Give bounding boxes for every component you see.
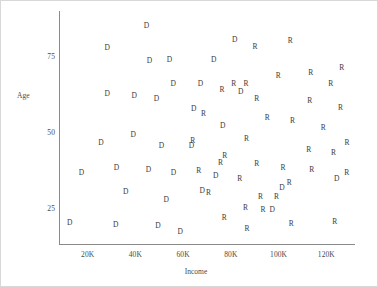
data-point-r: R: [190, 137, 195, 145]
y-tick-label: 50: [47, 128, 55, 137]
data-point-r: R: [244, 136, 249, 144]
data-point-r: R: [309, 166, 314, 174]
data-point-d: D: [279, 184, 284, 192]
data-point-r: R: [308, 69, 313, 77]
data-point-d: D: [163, 196, 168, 204]
data-point-r: R: [339, 64, 344, 72]
x-axis-title: Income: [185, 267, 208, 276]
data-point-d: D: [213, 172, 218, 180]
data-point-d: D: [178, 228, 183, 236]
x-tick-label: 40K: [129, 250, 142, 259]
data-point-r: R: [261, 206, 266, 214]
data-point-r: R: [258, 194, 263, 202]
data-point-d: D: [146, 166, 151, 174]
data-point-d: D: [269, 207, 274, 215]
data-point-d: D: [159, 143, 164, 151]
y-axis-line: [59, 11, 60, 245]
x-tick-label: 100K: [270, 250, 287, 259]
data-point-d: D: [147, 57, 152, 65]
data-point-d: D: [67, 219, 72, 227]
data-point-d: D: [232, 37, 237, 45]
data-point-r: R: [245, 225, 250, 233]
data-point-d: D: [200, 187, 205, 195]
x-tick-label: 120K: [318, 250, 335, 259]
data-point-d: D: [131, 92, 136, 100]
data-point-r: R: [254, 160, 259, 168]
data-point-d: D: [113, 221, 118, 229]
data-point-r: R: [243, 80, 248, 88]
data-point-r: R: [288, 38, 293, 46]
data-point-d: D: [167, 56, 172, 64]
data-point-r: R: [321, 125, 326, 133]
data-point-r: R: [332, 218, 337, 226]
data-point-r: R: [222, 214, 227, 222]
data-point-d: D: [105, 44, 110, 52]
data-point-r: R: [290, 118, 295, 126]
data-point-d: D: [171, 80, 176, 88]
x-tick-label: 80K: [224, 250, 237, 259]
data-point-r: R: [220, 86, 225, 94]
data-point-r: R: [306, 146, 311, 154]
data-point-r: R: [307, 97, 312, 105]
y-tick-label: 75: [47, 52, 55, 61]
data-point-d: D: [131, 132, 136, 140]
data-point-d: D: [123, 189, 128, 197]
data-point-d: D: [334, 175, 339, 183]
data-point-d: D: [198, 80, 203, 88]
y-axis-title: Age: [17, 91, 30, 100]
data-point-r: R: [345, 139, 350, 147]
data-point-r: R: [237, 175, 242, 183]
data-point-r: R: [287, 180, 292, 188]
x-tick-label: 60K: [177, 250, 190, 259]
data-point-r: R: [265, 114, 270, 122]
data-point-d: D: [238, 89, 243, 97]
data-point-d: D: [171, 169, 176, 177]
data-point-d: D: [211, 56, 216, 64]
data-point-r: R: [254, 95, 259, 103]
data-point-d: D: [191, 106, 196, 114]
data-point-d: D: [98, 139, 103, 147]
data-point-r: R: [201, 110, 206, 118]
data-point-d: D: [154, 95, 159, 103]
data-point-r: R: [206, 189, 211, 197]
y-tick-label: 25: [47, 203, 55, 212]
data-point-r: R: [274, 194, 279, 202]
data-point-r: R: [231, 80, 236, 88]
x-axis-line: [59, 244, 355, 245]
data-point-r: R: [243, 205, 248, 213]
data-point-r: R: [218, 159, 223, 167]
data-point-d: D: [144, 22, 149, 30]
data-point-r: R: [338, 104, 343, 112]
data-point-d: D: [105, 90, 110, 98]
data-point-r: R: [252, 44, 257, 52]
data-point-r: R: [344, 169, 349, 177]
data-point-r: R: [280, 165, 285, 173]
data-point-r: R: [328, 80, 333, 88]
data-point-r: R: [276, 72, 281, 80]
data-point-r: R: [289, 220, 294, 228]
data-point-d: D: [220, 122, 225, 130]
x-tick-label: 20K: [81, 250, 94, 259]
data-point-r: R: [331, 149, 336, 157]
data-point-r: R: [196, 168, 201, 176]
data-point-d: D: [155, 223, 160, 231]
data-point-d: D: [114, 165, 119, 173]
scatter-plot-figure: Age Income 755025 20K40K60K80K100K120K D…: [0, 0, 378, 287]
data-point-d: D: [79, 169, 84, 177]
